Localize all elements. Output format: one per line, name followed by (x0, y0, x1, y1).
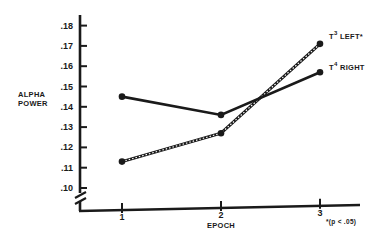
series-layer (119, 41, 324, 165)
x-tick-label: 2 (218, 210, 223, 220)
x-axis: 123 (79, 199, 360, 222)
data-point (119, 158, 126, 165)
y-axis: .18.17.16.15.14.13.12.11.10 (60, 15, 87, 211)
y-tick-label: .18 (60, 21, 73, 31)
legend-label: T3 LEFT* (329, 30, 363, 41)
x-axis-title: EPOCH (207, 221, 235, 230)
y-tick-label: .17 (60, 41, 73, 51)
y-tick-label: .16 (60, 61, 73, 71)
legend: T3 LEFT*T4 RIGHT (329, 30, 365, 72)
data-point (218, 130, 225, 137)
x-tick-label: 1 (119, 212, 124, 222)
data-point (218, 112, 225, 119)
y-tick-label: .12 (60, 142, 73, 152)
y-axis-title-line1: ALPHA (18, 90, 46, 99)
y-tick-label: .11 (61, 163, 73, 173)
y-tick-label: .14 (60, 102, 73, 112)
y-tick-label: .10 (60, 183, 73, 193)
y-tick-label: .13 (60, 122, 73, 132)
legend-label: T4 RIGHT (329, 61, 365, 72)
y-tick-label: .15 (60, 82, 73, 92)
significance-footnote: *(p < .05) (326, 218, 356, 226)
data-point (317, 69, 324, 76)
series-t4-right (119, 69, 324, 118)
y-axis-title-line2: POWER (18, 99, 48, 108)
line-chart: .18.17.16.15.14.13.12.11.10 123 ALPHA PO… (0, 0, 380, 240)
data-point (119, 93, 126, 100)
data-point (317, 41, 324, 48)
x-tick-label: 3 (317, 208, 322, 218)
